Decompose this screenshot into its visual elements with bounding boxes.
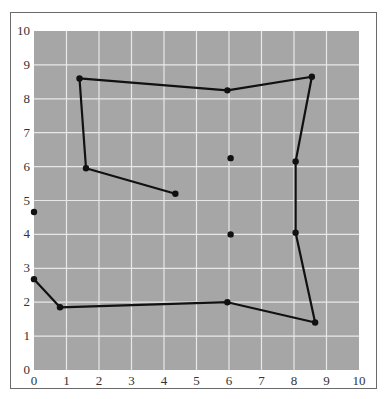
y-tick-label: 5 [24, 193, 31, 208]
data-point [292, 230, 298, 236]
data-point [227, 155, 233, 161]
y-tick-label: 6 [24, 159, 31, 174]
data-point [76, 75, 82, 81]
x-tick-label: 5 [193, 373, 200, 388]
x-tick-label: 7 [258, 373, 265, 388]
x-tick-label: 3 [128, 373, 135, 388]
x-tick-label: 2 [96, 373, 103, 388]
data-point [224, 299, 230, 305]
y-tick-label: 2 [24, 294, 31, 309]
data-point [31, 209, 37, 215]
x-tick-label: 10 [353, 373, 366, 388]
y-tick-label: 10 [17, 23, 30, 38]
data-point [292, 158, 298, 164]
data-point [312, 319, 318, 325]
data-point [83, 165, 89, 171]
data-point [309, 74, 315, 80]
x-tick-label: 9 [323, 373, 330, 388]
y-tick-label: 0 [24, 362, 31, 377]
x-tick-label: 4 [161, 373, 168, 388]
y-axis-ticks: 012345678910 [17, 23, 31, 377]
x-tick-label: 8 [291, 373, 298, 388]
data-point [57, 304, 63, 310]
y-tick-label: 8 [24, 91, 31, 106]
y-tick-label: 9 [24, 57, 31, 72]
chart: 012345678910 012345678910 [0, 0, 388, 399]
y-tick-label: 7 [24, 125, 31, 140]
data-point [227, 231, 233, 237]
data-point [172, 191, 178, 197]
data-point [31, 276, 37, 282]
x-tick-label: 1 [63, 373, 70, 388]
y-tick-label: 3 [24, 260, 31, 275]
x-tick-label: 6 [226, 373, 233, 388]
y-tick-label: 4 [24, 226, 31, 241]
data-point [224, 87, 230, 93]
x-axis-ticks: 012345678910 [31, 373, 366, 388]
y-tick-label: 1 [24, 328, 31, 343]
x-tick-label: 0 [31, 373, 38, 388]
